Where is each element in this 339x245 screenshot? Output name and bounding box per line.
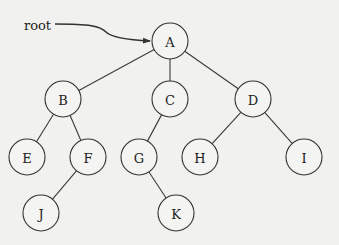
edge-d-h (212, 112, 241, 143)
edge-a-b (79, 50, 154, 91)
node-i: I (286, 139, 322, 175)
node-label: G (134, 151, 144, 166)
tree-svg: root ABCDEFGHIJK (0, 0, 339, 245)
node-k: K (158, 195, 194, 231)
node-c: C (152, 81, 188, 117)
edge-b-f (70, 116, 81, 141)
root-label: root (24, 18, 52, 33)
node-d: D (235, 81, 271, 117)
node-a: A (152, 23, 188, 59)
edge-a-d (185, 51, 238, 88)
node-label: F (83, 151, 92, 166)
root-pointer: root (24, 18, 150, 41)
edge-d-i (265, 113, 292, 144)
tree-diagram: root ABCDEFGHIJK (0, 0, 339, 245)
node-b: B (45, 81, 81, 117)
node-f: F (70, 139, 106, 175)
edge-b-e (36, 114, 53, 141)
node-label: C (165, 93, 175, 108)
node-label: E (22, 151, 32, 166)
node-g: G (121, 139, 157, 175)
edges (36, 50, 292, 200)
node-label: I (301, 151, 306, 166)
node-label: A (164, 35, 175, 50)
node-label: B (58, 93, 68, 108)
root-arrow-icon (55, 24, 150, 41)
edge-c-g (147, 115, 161, 141)
node-h: H (182, 139, 218, 175)
edge-g-k (149, 172, 166, 198)
node-label: D (248, 93, 258, 108)
node-label: J (36, 207, 43, 222)
node-label: K (171, 207, 181, 222)
node-label: H (194, 151, 205, 166)
node-j: J (23, 195, 59, 231)
edge-f-j (53, 171, 77, 199)
node-e: E (9, 139, 45, 175)
nodes: ABCDEFGHIJK (9, 23, 322, 231)
